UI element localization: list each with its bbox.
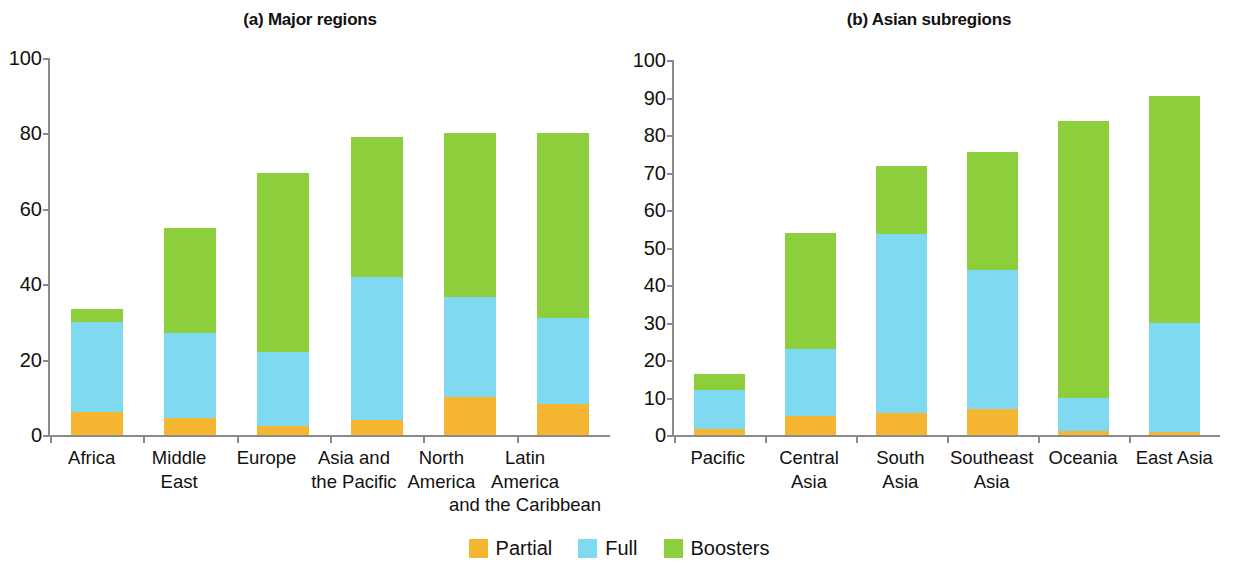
x-axis-label: Southeast Asia bbox=[946, 446, 1037, 493]
bar-segment-partial[interactable] bbox=[71, 412, 123, 435]
legend-swatch-icon bbox=[469, 539, 488, 558]
stacked-bar[interactable] bbox=[1149, 96, 1200, 435]
x-tick-mark bbox=[143, 435, 145, 443]
bar-slot bbox=[1129, 60, 1220, 435]
stacked-bar[interactable] bbox=[694, 374, 745, 435]
stacked-bar[interactable] bbox=[876, 166, 927, 435]
bar-segment-full[interactable] bbox=[257, 352, 309, 426]
bar-segment-full[interactable] bbox=[71, 322, 123, 412]
stacked-bar[interactable] bbox=[537, 133, 589, 435]
bar-slot bbox=[674, 60, 765, 435]
bar-segment-full[interactable] bbox=[537, 318, 589, 404]
y-tick-mark bbox=[667, 435, 674, 437]
legend-label: Partial bbox=[496, 537, 553, 560]
bar-slot bbox=[50, 58, 143, 435]
y-tick-mark bbox=[667, 323, 674, 325]
stacked-bar[interactable] bbox=[71, 309, 123, 435]
stacked-bar[interactable] bbox=[785, 233, 836, 435]
y-tick-label: 50 bbox=[644, 236, 666, 259]
bar-segment-full[interactable] bbox=[967, 270, 1018, 409]
bar-segment-partial[interactable] bbox=[1149, 432, 1200, 435]
bar-segment-partial[interactable] bbox=[164, 418, 216, 435]
y-tick-mark bbox=[667, 98, 674, 100]
x-tick-mark bbox=[947, 435, 949, 443]
legend-swatch-icon bbox=[664, 539, 683, 558]
bar-segment-boosters[interactable] bbox=[785, 233, 836, 349]
x-axis-label: Europe bbox=[223, 446, 310, 517]
stacked-bar[interactable] bbox=[967, 152, 1018, 435]
x-tick-mark bbox=[1038, 435, 1040, 443]
bar-segment-partial[interactable] bbox=[785, 416, 836, 435]
bar-segment-full[interactable] bbox=[785, 349, 836, 417]
x-tick-mark bbox=[856, 435, 858, 443]
bar-segment-full[interactable] bbox=[876, 234, 927, 412]
legend-label: Boosters bbox=[691, 537, 770, 560]
bar-slot bbox=[237, 58, 330, 435]
bar-segment-boosters[interactable] bbox=[71, 309, 123, 322]
bar-segment-boosters[interactable] bbox=[1058, 121, 1109, 397]
bar-slot bbox=[947, 60, 1038, 435]
legend-item-partial[interactable]: Partial bbox=[469, 537, 553, 560]
bar-segment-partial[interactable] bbox=[876, 413, 927, 435]
y-tick-mark bbox=[667, 248, 674, 250]
x-tick-mark bbox=[237, 435, 239, 443]
stacked-bar[interactable] bbox=[444, 133, 496, 435]
y-tick-label: 100 bbox=[9, 47, 42, 70]
y-tick-mark bbox=[43, 360, 50, 362]
x-axis-label: Middle East bbox=[135, 446, 222, 517]
bar-slot bbox=[143, 58, 236, 435]
y-tick-label: 0 bbox=[31, 424, 42, 447]
legend-item-boosters[interactable]: Boosters bbox=[664, 537, 770, 560]
bar-segment-partial[interactable] bbox=[967, 409, 1018, 435]
bar-segment-partial[interactable] bbox=[351, 420, 403, 435]
bar-segment-boosters[interactable] bbox=[444, 133, 496, 296]
plot-area-asian-subregions: 0102030405060708090100 bbox=[672, 60, 1220, 437]
bar-segment-boosters[interactable] bbox=[164, 228, 216, 334]
y-tick-mark bbox=[43, 284, 50, 286]
bar-segment-boosters[interactable] bbox=[257, 173, 309, 352]
bar-segment-partial[interactable] bbox=[537, 404, 589, 435]
y-tick-label: 40 bbox=[20, 273, 42, 296]
y-tick-label: 10 bbox=[644, 386, 666, 409]
bar-slot bbox=[330, 58, 423, 435]
y-tick-mark bbox=[43, 133, 50, 135]
y-tick-mark bbox=[667, 173, 674, 175]
stacked-bar[interactable] bbox=[351, 137, 403, 435]
bar-segment-full[interactable] bbox=[1149, 323, 1200, 433]
bar-slot bbox=[423, 58, 516, 435]
bar-segment-partial[interactable] bbox=[1058, 431, 1109, 435]
bar-segment-partial[interactable] bbox=[257, 426, 309, 435]
bar-segment-full[interactable] bbox=[444, 297, 496, 397]
stacked-bar[interactable] bbox=[164, 228, 216, 435]
bar-segment-boosters[interactable] bbox=[876, 166, 927, 235]
x-axis-label: Oceania bbox=[1037, 446, 1128, 493]
y-tick-mark bbox=[667, 210, 674, 212]
legend-swatch-icon bbox=[578, 539, 597, 558]
stacked-bar[interactable] bbox=[257, 173, 309, 435]
bar-segment-full[interactable] bbox=[164, 333, 216, 418]
bar-segment-boosters[interactable] bbox=[1149, 96, 1200, 323]
x-tick-mark bbox=[1129, 435, 1131, 443]
y-tick-label: 30 bbox=[644, 311, 666, 334]
plot-area-major-regions: 020406080100 bbox=[48, 58, 610, 437]
y-tick-label: 60 bbox=[20, 197, 42, 220]
x-tick-mark bbox=[330, 435, 332, 443]
bar-segment-partial[interactable] bbox=[694, 429, 745, 435]
x-tick-mark bbox=[765, 435, 767, 443]
stacked-bar[interactable] bbox=[1058, 121, 1109, 435]
bar-segment-full[interactable] bbox=[1058, 398, 1109, 432]
bar-segment-full[interactable] bbox=[351, 277, 403, 420]
bar-segment-boosters[interactable] bbox=[967, 152, 1018, 270]
y-tick-mark bbox=[667, 135, 674, 137]
y-tick-mark bbox=[667, 285, 674, 287]
bar-segment-boosters[interactable] bbox=[694, 374, 745, 390]
bar-segment-boosters[interactable] bbox=[537, 133, 589, 318]
x-axis-label: Central Asia bbox=[763, 446, 854, 493]
x-axis-labels-asian-subregions: PacificCentral AsiaSouth AsiaSoutheast A… bbox=[672, 446, 1220, 493]
x-axis-label: Africa bbox=[48, 446, 135, 517]
bar-segment-partial[interactable] bbox=[444, 397, 496, 435]
bar-segment-full[interactable] bbox=[694, 390, 745, 429]
legend-item-full[interactable]: Full bbox=[578, 537, 637, 560]
x-axis-label: South Asia bbox=[855, 446, 946, 493]
bar-segment-boosters[interactable] bbox=[351, 137, 403, 276]
